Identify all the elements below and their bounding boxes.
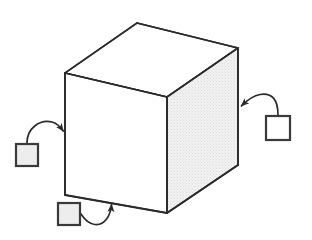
- cube: [65, 23, 238, 213]
- callout-left[interactable]: [16, 121, 63, 166]
- callout-right[interactable]: [242, 94, 291, 140]
- callout-bottom[interactable]: [58, 203, 112, 225]
- callout-marker-bottom[interactable]: [58, 203, 80, 225]
- callout-arrow-right: [242, 94, 279, 115]
- figure-canvas: Line drawing of a 3D cube in oblique vie…: [0, 0, 312, 240]
- callout-arrow-bottom: [81, 205, 112, 225]
- callout-arrow-left: [27, 121, 63, 143]
- cube-diagram: [0, 0, 312, 240]
- callout-marker-right[interactable]: [266, 116, 290, 140]
- callout-marker-left[interactable]: [16, 144, 38, 166]
